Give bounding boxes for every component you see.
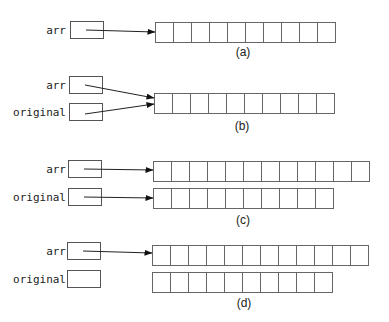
- array-cell: [171, 273, 189, 292]
- array-cell: [246, 23, 264, 42]
- array-cell: [154, 162, 172, 181]
- array-cell: [171, 246, 189, 265]
- array-cell: [189, 273, 207, 292]
- array-cell: [225, 273, 243, 292]
- panel-caption: (c): [228, 213, 258, 227]
- panel-caption: (b): [227, 119, 257, 133]
- array-cell: [316, 162, 334, 181]
- array-cell: [281, 94, 299, 113]
- array-cell: [227, 94, 245, 113]
- array-cell: [263, 94, 281, 113]
- array-block-original: [153, 188, 334, 209]
- array-cell: [243, 246, 261, 265]
- array-cell: [352, 162, 370, 181]
- pointer-box-arr: [70, 21, 104, 39]
- array-cell: [210, 23, 228, 42]
- array-cell: [209, 94, 227, 113]
- array-block-new: [152, 245, 369, 266]
- array-cell: [317, 94, 335, 113]
- array-cell: [207, 273, 225, 292]
- array-cell: [244, 162, 262, 181]
- array-block: [155, 22, 336, 43]
- array-cell: [208, 189, 226, 208]
- array-cell: [243, 273, 261, 292]
- array-cell: [298, 189, 316, 208]
- array-cell: [261, 273, 279, 292]
- var-label-original: original: [2, 274, 66, 286]
- array-cell: [155, 94, 173, 113]
- array-block-orphaned: [152, 272, 333, 293]
- var-label-arr: arr: [2, 246, 66, 258]
- array-cell: [298, 162, 316, 181]
- var-label-arr: arr: [2, 80, 66, 92]
- array-block-new: [153, 161, 370, 182]
- array-cell: [172, 162, 190, 181]
- array-block: [154, 93, 335, 114]
- array-cell: [190, 189, 208, 208]
- array-cell: [280, 162, 298, 181]
- array-cell: [174, 23, 192, 42]
- array-cell: [299, 94, 317, 113]
- array-cell: [262, 189, 280, 208]
- array-cell: [280, 189, 298, 208]
- panel-caption: (a): [228, 45, 258, 59]
- array-cell: [262, 162, 280, 181]
- arrow-icon-group: [83, 30, 155, 253]
- array-cell: [225, 246, 243, 265]
- pointer-box-arr: [69, 76, 103, 94]
- array-cell: [153, 246, 171, 265]
- array-cell: [154, 189, 172, 208]
- array-cell: [190, 162, 208, 181]
- array-cell: [192, 23, 210, 42]
- array-cell: [300, 23, 318, 42]
- array-cell: [228, 23, 246, 42]
- array-cell: [153, 273, 171, 292]
- array-cell: [226, 162, 244, 181]
- array-cell: [173, 94, 191, 113]
- array-cell: [156, 23, 174, 42]
- pointer-box-original: [67, 270, 101, 288]
- array-cell: [191, 94, 209, 113]
- array-cell: [279, 246, 297, 265]
- array-cell: [282, 23, 300, 42]
- pointer-box-arr: [67, 242, 101, 260]
- pointer-box-arr: [68, 160, 102, 178]
- array-cell: [318, 23, 336, 42]
- array-cell: [207, 246, 225, 265]
- array-cell: [208, 162, 226, 181]
- var-label-original: original: [2, 192, 66, 204]
- array-cell: [226, 189, 244, 208]
- array-cell: [279, 273, 297, 292]
- var-label-arr: arr: [2, 25, 66, 37]
- var-label-arr: arr: [2, 164, 66, 176]
- array-cell: [334, 162, 352, 181]
- array-cell: [297, 273, 315, 292]
- array-cell: [297, 246, 315, 265]
- array-cell: [189, 246, 207, 265]
- array-cell: [261, 246, 279, 265]
- diagram-stage: arr (a) arr original (b) arr original (c…: [0, 0, 389, 322]
- pointer-box-original: [69, 103, 103, 121]
- panel-caption: (d): [229, 296, 259, 310]
- array-cell: [244, 189, 262, 208]
- array-cell: [315, 273, 333, 292]
- var-label-original: original: [2, 107, 66, 119]
- array-cell: [316, 189, 334, 208]
- array-cell: [351, 246, 369, 265]
- array-cell: [315, 246, 333, 265]
- array-cell: [264, 23, 282, 42]
- pointer-box-original: [68, 188, 102, 206]
- array-cell: [245, 94, 263, 113]
- array-cell: [172, 189, 190, 208]
- array-cell: [333, 246, 351, 265]
